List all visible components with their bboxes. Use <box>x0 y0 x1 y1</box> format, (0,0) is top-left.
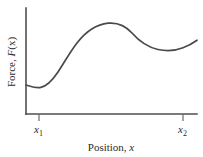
y-axis-label-arg: (x) <box>5 37 18 50</box>
x-axis-label-symbol: x <box>128 141 134 153</box>
x-tick-label-2: x2 <box>177 123 187 138</box>
force-curve <box>26 23 197 88</box>
x-tick-label-1: x1 <box>33 123 43 138</box>
plot-canvas: x1 x2 Position, x Force, F(x) <box>0 0 203 157</box>
force-position-figure: x1 x2 Position, x Force, F(x) <box>0 0 203 157</box>
x-tick-2-subscript: 2 <box>183 129 187 138</box>
y-axis-label-prefix: Force, <box>5 57 17 88</box>
x-axis-label: Position, x <box>88 141 135 153</box>
y-axis-label: Force, F(x) <box>5 37 18 87</box>
x-tick-1-subscript: 1 <box>39 129 43 138</box>
x-axis-label-prefix: Position, <box>88 141 130 153</box>
